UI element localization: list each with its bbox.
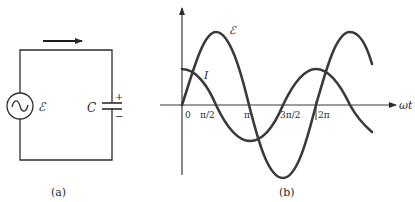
caption-b: (b) <box>279 186 295 199</box>
tick-label-2pi: 2π <box>318 110 330 120</box>
plus-sign: + <box>115 91 123 102</box>
capacitor-label: C <box>87 101 96 115</box>
tick-label-pi: π <box>244 110 250 120</box>
circuit-wire-bottom <box>20 109 112 160</box>
waveform-plot: ωt 0 π/2 π 3π/2 2π ℰ I (b) <box>160 8 413 199</box>
tick-label-0: 0 <box>185 110 191 120</box>
x-axis-label: ωt <box>399 99 413 112</box>
circuit-diagram: ℰ C + − (a) <box>7 41 123 199</box>
emf-source-label: ℰ <box>38 100 47 114</box>
minus-sign: − <box>115 111 123 122</box>
tick-label-3pi-half: 3π/2 <box>280 110 300 120</box>
sine-wave-icon <box>12 101 28 111</box>
circuit-wire <box>20 50 112 103</box>
tick-label-pi-half: π/2 <box>200 110 215 120</box>
emf-curve-label: ℰ <box>229 24 237 37</box>
caption-a: (a) <box>51 186 66 199</box>
current-curve-label: I <box>203 69 209 82</box>
